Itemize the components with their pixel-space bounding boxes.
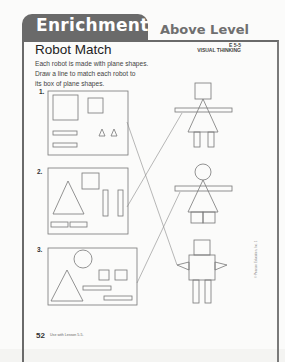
robot-1[interactable] [175, 83, 232, 147]
match-line-2-to-robot-1 [127, 113, 182, 207]
page-number: 52 [36, 331, 45, 340]
lesson-reference: Use with Lesson 5-5. [50, 333, 84, 337]
copyright: © Pearson Education, Inc. 1 [254, 241, 258, 278]
robot-3[interactable] [177, 240, 227, 303]
match-line-1-to-robot-3 [127, 122, 177, 265]
match-lines [127, 113, 182, 283]
robot-2[interactable] [175, 164, 232, 223]
match-line-3-to-robot-2 [137, 192, 180, 283]
shape-box-3[interactable] [48, 248, 137, 305]
shape-box-2[interactable] [48, 168, 128, 234]
shape-box-1[interactable] [48, 91, 128, 155]
